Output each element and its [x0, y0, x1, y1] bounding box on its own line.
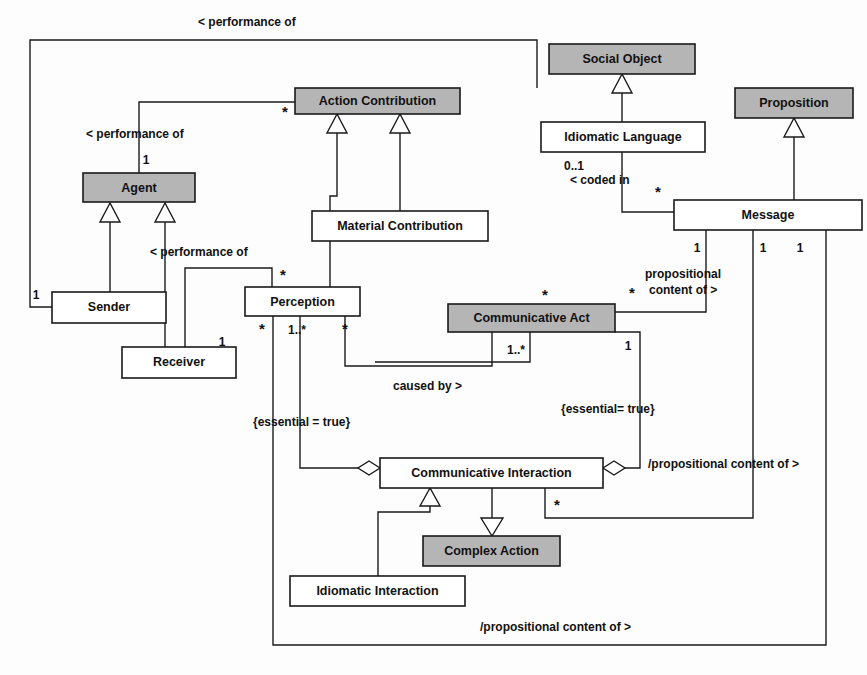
- class-idiomatic-interaction[interactable]: Idiomatic Interaction: [290, 576, 465, 606]
- multiplicity-message-one-a: 1: [694, 241, 701, 255]
- aggregation-diamond-communicative-act: [603, 461, 625, 475]
- class-message[interactable]: Message: [674, 200, 862, 230]
- class-material-contribution[interactable]: Material Contribution: [312, 211, 488, 241]
- generalization-arrow-sender: [100, 203, 120, 222]
- class-label-message: Message: [742, 208, 795, 222]
- uml-diagram-svg: Action Contribution Agent Material Contr…: [0, 0, 867, 675]
- multiplicity-message-star-left: *: [655, 183, 661, 200]
- generalization-arrow-idiomatic-language: [612, 74, 632, 93]
- generalization-arrow-receiver: [155, 203, 175, 222]
- class-label-agent: Agent: [121, 181, 157, 195]
- class-social-object[interactable]: Social Object: [549, 44, 695, 74]
- multiplicity-perception-one-to-many: 1..*: [288, 323, 306, 337]
- generalization-arrow-perception: [327, 114, 347, 133]
- assoc-label-performance-of-agent: < performance of: [86, 127, 185, 141]
- multiplicity-message-one-b: 1: [760, 241, 767, 255]
- class-label-receiver: Receiver: [153, 355, 205, 369]
- assoc-label-performance-of-receiver: < performance of: [150, 245, 249, 259]
- multiplicity-idiomatic-language-zero-one: 0..1: [564, 159, 584, 173]
- multiplicity-action-contribution-star: *: [282, 103, 288, 120]
- class-label-social-object: Social Object: [582, 52, 662, 66]
- class-label-sender: Sender: [88, 300, 131, 314]
- class-label-communicative-act: Communicative Act: [473, 311, 590, 325]
- class-agent[interactable]: Agent: [83, 173, 195, 202]
- multiplicity-agent-one: 1: [143, 153, 150, 167]
- multiplicity-communicative-act-star-right: *: [629, 284, 635, 301]
- assoc-label-caused-by: caused by >: [393, 379, 462, 393]
- edge-coded-in: [622, 152, 674, 212]
- generalization-arrow-proposition: [784, 118, 804, 137]
- class-sender[interactable]: Sender: [52, 292, 166, 323]
- multiplicity-communicative-act-one-right: 1: [625, 339, 632, 353]
- class-idiomatic-language[interactable]: Idiomatic Language: [541, 122, 705, 152]
- generalization-arrow-complex-action: [481, 518, 503, 536]
- generalization-arrow-material: [390, 114, 410, 133]
- uml-diagram-canvas: Action Contribution Agent Material Contr…: [0, 0, 867, 675]
- edge-gen-perception-branch: [330, 133, 337, 287]
- assoc-label-essential-left: {essential = true}: [253, 415, 350, 429]
- class-label-complex-action: Complex Action: [444, 544, 539, 558]
- generalization-arrow-idiomatic-interaction: [420, 488, 440, 506]
- edge-aggregation-perception: [300, 316, 369, 468]
- class-action-contribution[interactable]: Action Contribution: [295, 88, 460, 114]
- class-receiver[interactable]: Receiver: [122, 347, 236, 378]
- class-perception[interactable]: Perception: [245, 287, 360, 316]
- multiplicity-sender-one: 1: [33, 288, 40, 302]
- multiplicity-receiver-one: 1: [219, 335, 226, 349]
- class-proposition[interactable]: Proposition: [735, 88, 853, 118]
- assoc-label-performance-of-top: < performance of: [198, 15, 297, 29]
- multiplicity-communicative-act-star-top: *: [542, 286, 548, 303]
- assoc-label-propositional-content-bottom: /propositional content of >: [480, 620, 631, 634]
- aggregation-diamond-perception: [358, 461, 380, 475]
- multiplicity-communicative-interaction-star: *: [554, 496, 560, 513]
- assoc-label-propositional-content-mid: /propositional content of >: [648, 457, 799, 471]
- class-label-idiomatic-interaction: Idiomatic Interaction: [316, 584, 438, 598]
- multiplicity-message-one-c: 1: [797, 241, 804, 255]
- class-label-communicative-interaction: Communicative Interaction: [411, 466, 571, 480]
- class-communicative-interaction[interactable]: Communicative Interaction: [380, 458, 603, 488]
- multiplicity-perception-star-incoming: *: [280, 266, 286, 283]
- class-label-idiomatic-language: Idiomatic Language: [564, 130, 681, 144]
- assoc-label-propositional-content-line1: propositional: [645, 267, 721, 281]
- class-complex-action[interactable]: Complex Action: [423, 536, 560, 566]
- class-label-material-contribution: Material Contribution: [337, 219, 463, 233]
- class-communicative-act[interactable]: Communicative Act: [448, 304, 615, 332]
- assoc-label-essential-right: {essential= true}: [561, 402, 655, 416]
- class-label-action-contribution: Action Contribution: [319, 94, 436, 108]
- multiplicity-perception-star-b: *: [342, 320, 348, 337]
- class-label-perception: Perception: [270, 295, 335, 309]
- assoc-label-coded-in: < coded in: [570, 173, 630, 187]
- multiplicity-perception-star-a: *: [259, 320, 265, 337]
- multiplicity-communicative-act-one-to-many: 1..*: [507, 343, 525, 357]
- class-label-proposition: Proposition: [759, 96, 828, 110]
- assoc-label-propositional-content-line2: content of >: [649, 283, 717, 297]
